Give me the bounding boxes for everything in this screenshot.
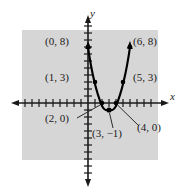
x-axis-left-arrowhead — [11, 100, 19, 106]
graph-figure: (0, 8) (1, 3) (2, 0) (3, −1) (4, 0) (5, … — [0, 0, 181, 191]
point-5-3-dot — [121, 80, 126, 85]
graph-background-panel — [22, 30, 158, 160]
point-label-4-0: (4, 0) — [137, 122, 161, 133]
point-4-0-dot — [114, 101, 119, 106]
point-label-6-8: (6, 8) — [133, 36, 157, 47]
point-label-0-8: (0, 8) — [45, 36, 69, 47]
point-label-1-3: (1, 3) — [45, 72, 69, 83]
x-axis-label: x — [170, 91, 175, 102]
point-0-8-dot — [86, 45, 91, 50]
point-label-3-neg1: (3, −1) — [92, 128, 122, 139]
point-1-3-dot — [93, 80, 98, 85]
point-2-0-dot — [100, 101, 105, 106]
point-6-8-dot — [128, 45, 133, 50]
y-axis-bottom-arrowhead — [85, 179, 91, 187]
point-label-5-3: (5, 3) — [133, 72, 157, 83]
point-label-2-0: (2, 0) — [45, 113, 69, 124]
x-axis-right-arrowhead — [161, 100, 169, 106]
parabola-graph-svg — [0, 0, 181, 191]
point-3-neg1-dot — [106, 107, 111, 112]
y-axis-label: y — [90, 8, 95, 19]
